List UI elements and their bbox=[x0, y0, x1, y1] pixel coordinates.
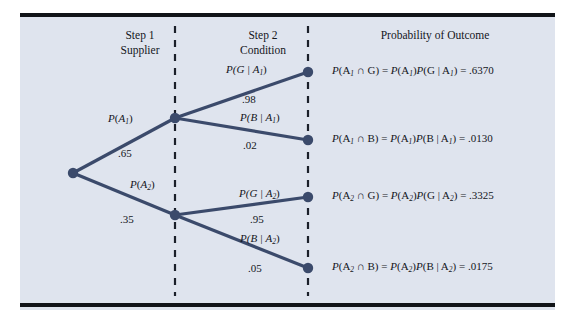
o3-cap: ∩ G) = bbox=[354, 189, 391, 201]
o2-eq: = bbox=[456, 132, 468, 144]
edge-label-p-b-given-a2-close: ) bbox=[276, 232, 280, 244]
o4-p: P bbox=[332, 260, 339, 272]
edge-label-p-a1-p: P bbox=[108, 112, 115, 124]
o2-p: P bbox=[332, 132, 339, 144]
o1-eq: = bbox=[457, 64, 469, 76]
node-root bbox=[68, 168, 78, 178]
o3-val: .3325 bbox=[469, 189, 494, 201]
edge-label-p-g-given-a1-text: P(G | A bbox=[226, 63, 259, 75]
o3-eq: = bbox=[457, 189, 469, 201]
branch-root-a1 bbox=[73, 118, 175, 173]
o2-val: .0130 bbox=[468, 132, 493, 144]
o2-lhs: (A bbox=[339, 132, 351, 144]
edge-label-p-a2: P(A2) bbox=[130, 178, 155, 192]
o2-r2b: (B | A bbox=[423, 132, 449, 144]
o3-lhs: (A bbox=[339, 189, 351, 201]
node-a1 bbox=[170, 113, 180, 123]
column-header-step2-line1: Step 2 bbox=[215, 28, 311, 43]
edge-label-p-a1-close: ) bbox=[129, 112, 133, 124]
o4-r1: P bbox=[390, 260, 397, 272]
outcome-expression-a1-b: P(A1 ∩ B) = P(A1)P(B | A1) = .0130 bbox=[332, 132, 493, 146]
o2-cap: ∩ B) = bbox=[354, 132, 390, 144]
o1-r1b: (A bbox=[398, 64, 410, 76]
o4-eq: = bbox=[456, 260, 468, 272]
o4-val: .0175 bbox=[468, 260, 493, 272]
o4-r2b: (B | A bbox=[423, 260, 449, 272]
edge-label-p-a2-close: ) bbox=[151, 178, 155, 190]
o4-lhs: (A bbox=[339, 260, 351, 272]
edge-prob-g-given-a1: .98 bbox=[242, 93, 256, 105]
edge-label-p-a2-p: P bbox=[130, 178, 137, 190]
o3-r1: P bbox=[391, 189, 398, 201]
edge-prob-b-given-a2: .05 bbox=[248, 262, 262, 274]
o3-p: P bbox=[332, 189, 339, 201]
edge-prob-b-given-a1: .02 bbox=[243, 139, 257, 151]
outcome-expression-a1-g: P(A1 ∩ G) = P(A1)P(G | A1) = .6370 bbox=[332, 64, 494, 78]
outcome-expression-a2-b: P(A2 ∩ B) = P(A2)P(B | A2) = .0175 bbox=[332, 260, 493, 274]
edge-label-p-b-given-a2-text: P(B | A bbox=[240, 232, 272, 244]
column-header-outcome: Probability of Outcome bbox=[330, 28, 540, 43]
o1-p: P bbox=[332, 64, 339, 76]
edge-label-p-g-given-a1: P(G | A1) bbox=[226, 63, 267, 77]
edge-prob-a1: .65 bbox=[118, 147, 132, 159]
column-header-step1-line1: Step 1 bbox=[92, 28, 188, 43]
o2-r1b: (A bbox=[397, 132, 409, 144]
column-header-outcome-text: Probability of Outcome bbox=[330, 28, 540, 43]
probability-tree-figure: Step 1 Supplier Step 2 Condition Probabi… bbox=[0, 0, 563, 325]
o1-lhs: (A bbox=[339, 64, 351, 76]
edge-label-p-b-given-a2: P(B | A2) bbox=[240, 232, 280, 246]
node-a2-g bbox=[303, 192, 313, 202]
edge-label-p-b-given-a1-text: P(B | A bbox=[240, 111, 272, 123]
column-header-step1-line2: Supplier bbox=[92, 43, 188, 58]
edge-label-p-b-given-a1: P(B | A1) bbox=[240, 111, 280, 125]
column-header-step1: Step 1 Supplier bbox=[92, 28, 188, 57]
edge-label-p-g-given-a2: P(G | A2) bbox=[239, 187, 280, 201]
o3-r1b: (A bbox=[398, 189, 410, 201]
edge-prob-a2: .35 bbox=[120, 213, 134, 225]
branch-root-a2 bbox=[73, 173, 175, 215]
edge-label-p-b-given-a1-close: ) bbox=[276, 111, 280, 123]
column-header-step2: Step 2 Condition bbox=[215, 28, 311, 57]
o1-r1: P bbox=[391, 64, 398, 76]
column-header-step2-line2: Condition bbox=[215, 43, 311, 58]
edge-label-p-g-given-a1-close: ) bbox=[263, 63, 267, 75]
edge-label-p-a1: P(A1) bbox=[108, 112, 133, 126]
edge-label-p-g-given-a2-text: P(G | A bbox=[239, 187, 272, 199]
o1-r2b: (G | A bbox=[423, 64, 450, 76]
o4-r2: P bbox=[416, 260, 423, 272]
o1-val: .6370 bbox=[469, 64, 494, 76]
edge-label-p-g-given-a2-close: ) bbox=[276, 187, 280, 199]
node-a2 bbox=[170, 210, 180, 220]
o4-cap: ∩ B) = bbox=[354, 260, 390, 272]
o2-r1: P bbox=[390, 132, 397, 144]
node-a1-g bbox=[303, 67, 313, 77]
o2-r2: P bbox=[416, 132, 423, 144]
o3-r2b: (G | A bbox=[423, 189, 450, 201]
node-a2-b bbox=[303, 263, 313, 273]
edge-prob-g-given-a2: .95 bbox=[250, 213, 264, 225]
o1-cap: ∩ G) = bbox=[354, 64, 391, 76]
o4-r1b: (A bbox=[397, 260, 409, 272]
node-a1-b bbox=[303, 135, 313, 145]
outcome-expression-a2-g: P(A2 ∩ G) = P(A2)P(G | A2) = .3325 bbox=[332, 189, 494, 203]
